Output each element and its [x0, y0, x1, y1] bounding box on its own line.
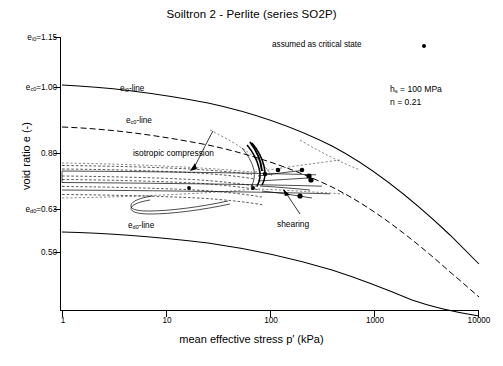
isotropic-path-2	[62, 169, 255, 179]
shearing-diag-2	[258, 178, 308, 181]
leader-arrowheads	[190, 163, 290, 196]
critical-state-point	[300, 168, 305, 173]
projection-lines	[62, 130, 360, 198]
critical-state-point	[276, 168, 281, 173]
y-axis-ticks	[54, 38, 60, 253]
critical-state-point	[297, 193, 302, 198]
isotropic-path-4	[62, 180, 260, 191]
critical-state-point	[263, 172, 267, 176]
leader-isotropic	[196, 131, 213, 164]
plot-canvas	[0, 0, 503, 366]
limiting-curves	[62, 85, 479, 316]
isotropic-path-3	[62, 176, 258, 187]
arrowhead-shearing	[283, 189, 290, 196]
projection-3	[255, 160, 340, 172]
isotropic-path-6	[62, 195, 264, 206]
shearing-return-2	[131, 196, 228, 211]
shearing-return-3	[131, 200, 230, 214]
critical-state-point	[187, 186, 191, 190]
curve-ec0	[62, 127, 479, 297]
critical-state-point	[308, 177, 313, 182]
critical-state-point	[251, 186, 255, 190]
shearing-path-3	[62, 190, 330, 194]
leader-shearing	[288, 196, 300, 214]
shearing-paths	[62, 143, 330, 214]
curve-ed0	[62, 232, 479, 316]
x-axis-ticks	[63, 311, 479, 317]
shearing-path-2	[62, 183, 322, 187]
chart-figure: Soiltron 2 - Perlite (series SO2P) void …	[0, 0, 503, 366]
